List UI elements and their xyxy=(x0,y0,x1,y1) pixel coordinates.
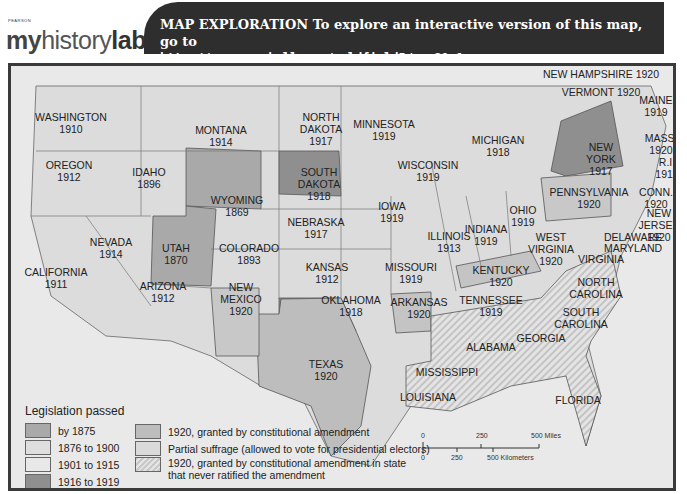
state-label: GEORGIA xyxy=(516,332,565,344)
state-label: OHIO xyxy=(510,204,537,216)
state-label: NEW HAMPSHIRE 1920 xyxy=(543,68,659,80)
state-label: MEXICO xyxy=(220,293,261,305)
banner-text: MAP EXPLORATION To explore an interactiv… xyxy=(160,16,664,50)
state-label: 1912 xyxy=(315,273,339,285)
state-label: 1919 xyxy=(474,235,498,247)
state-label: UTAH xyxy=(162,242,190,254)
state-label: DAKOTA xyxy=(300,123,342,135)
scale-mile-500: 500 Miles xyxy=(531,432,561,439)
state-label: 1917 xyxy=(655,168,673,180)
logo-my: my xyxy=(6,26,41,54)
scale-mile-250: 250 xyxy=(476,432,488,439)
state-label: LOUISIANA xyxy=(400,391,456,403)
state-label: VIRGINIA xyxy=(578,253,624,265)
state-label: WASHINGTON xyxy=(35,111,107,123)
state-label: OKLAHOMA xyxy=(321,294,381,306)
legend-label: that never ratified the amendment xyxy=(168,469,325,481)
state-label: WYOMING xyxy=(211,194,264,206)
state-label: VIRGINIA xyxy=(528,243,574,255)
state-label: 1920 xyxy=(489,276,513,288)
state-label: R.I. xyxy=(659,156,673,168)
state-label: 1920 xyxy=(314,370,338,382)
state-label: 1919 xyxy=(399,273,423,285)
state-label: TENNESSEE xyxy=(459,294,523,306)
suffrage-map: WASHINGTON1910OREGON1912IDAHO1896MONTANA… xyxy=(8,63,676,491)
scale-bar: 0 250 500 Miles 0 250 500 Kilometers xyxy=(421,436,561,469)
state-label: CONN. xyxy=(639,186,673,198)
state-label: KENTUCKY xyxy=(472,264,529,276)
legend-label: 1916 to 1919 xyxy=(58,476,119,488)
state-label: OREGON xyxy=(46,159,93,171)
logo-history: history xyxy=(41,26,111,54)
state-label: 1914 xyxy=(99,248,123,260)
state-label: NEW xyxy=(589,141,614,153)
swatch-hatched xyxy=(135,457,161,472)
state-label: DAKOTA xyxy=(298,178,340,190)
state-label: MAINE xyxy=(639,94,672,106)
state-label: 1893 xyxy=(237,254,261,266)
state-label: 1917 xyxy=(589,165,613,177)
state-label: CAROLINA xyxy=(569,288,623,300)
state-label: 1910 xyxy=(59,123,83,135)
state-label: 1920 xyxy=(539,255,563,267)
state-label: 1911 xyxy=(45,278,68,290)
state-label: MISSOURI xyxy=(385,261,437,273)
state-label: NORTH xyxy=(577,276,614,288)
state-label: 1918 xyxy=(486,146,510,158)
map-exploration-banner: MAP EXPLORATION To explore an interactiv… xyxy=(144,2,664,54)
state-label: 1920 xyxy=(577,198,601,210)
state-label: IDAHO xyxy=(132,166,165,178)
state-label: WISCONSIN xyxy=(398,159,459,171)
state-label: TEXAS xyxy=(309,358,343,370)
state-label: ARKANSAS xyxy=(390,296,447,308)
legend-label: 1920, granted by constitutional amendmen… xyxy=(168,457,406,469)
state-label: SOUTH xyxy=(301,166,338,178)
state-label: 1913 xyxy=(437,242,461,254)
state-label: 1920 xyxy=(649,144,673,156)
legend: Legislation passed by 1875 1876 to 1900 … xyxy=(25,404,124,490)
state-label: NORTH xyxy=(302,111,339,123)
legend-label: 1920, granted by constitutional amendmen… xyxy=(168,426,369,438)
state-label: 1917 xyxy=(304,228,328,240)
state-label: 1870 xyxy=(164,254,188,266)
state-label: IOWA xyxy=(378,200,406,212)
legend-label: 1876 to 1900 xyxy=(58,442,119,454)
state-label: CALIFORNIA xyxy=(24,266,87,278)
state-label: FLORIDA xyxy=(555,394,601,406)
state-label: VERMONT 1920 xyxy=(562,86,641,98)
state-label: MINNESOTA xyxy=(353,118,415,130)
state-label: 1912 xyxy=(151,292,175,304)
state-label: 1919 xyxy=(380,212,404,224)
state-label: 1920 xyxy=(229,305,253,317)
swatch-partial xyxy=(135,441,161,456)
swatch-amendment xyxy=(135,424,161,439)
state-label: MARYLAND xyxy=(604,242,663,254)
swatch-1876-1900 xyxy=(25,440,51,455)
swatch-1901-1915 xyxy=(25,457,51,472)
state-label: KANSAS xyxy=(306,261,349,273)
state-label: SOUTH xyxy=(563,306,600,318)
logo-lab: lab xyxy=(111,26,146,54)
state-label: MICHIGAN xyxy=(472,134,525,146)
legend-label: Partial suffrage (allowed to vote for pr… xyxy=(168,443,430,455)
state-label: CAROLINA xyxy=(554,318,608,330)
state-label: MISSISSIPPI xyxy=(416,366,478,378)
state-label: 1919 xyxy=(372,130,396,142)
state-label: ALABAMA xyxy=(466,341,516,353)
state-label: 1918 xyxy=(307,190,331,202)
legend-title: Legislation passed xyxy=(25,404,124,418)
legend-label: 1901 to 1915 xyxy=(58,459,119,471)
state-label: 1919 xyxy=(511,216,535,228)
state-label: 1919 xyxy=(416,171,440,183)
state-label: YORK xyxy=(586,153,616,165)
state-label: JERSEY xyxy=(639,219,673,231)
scale-km-250: 250 xyxy=(451,454,463,461)
state-label: 1896 xyxy=(137,178,161,190)
state-label: 1914 xyxy=(209,136,233,148)
state-label: ARIZONA xyxy=(140,280,187,292)
state-label: NEVADA xyxy=(90,236,132,248)
state-label: NEW xyxy=(229,281,254,293)
state-label: 1918 xyxy=(339,306,363,318)
state-label: 1920 xyxy=(407,308,431,320)
state-label: INDIANA xyxy=(465,223,508,235)
